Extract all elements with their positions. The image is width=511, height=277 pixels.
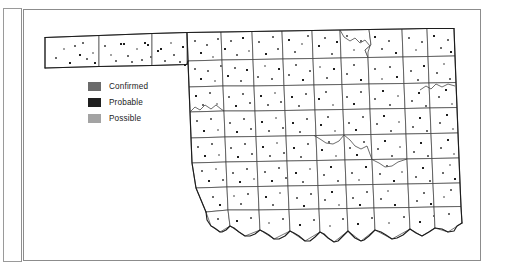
figure-frame: Confirmed Probable Possible <box>23 9 481 261</box>
legend-label-possible: Possible <box>109 114 141 123</box>
oklahoma-county-map <box>24 10 482 262</box>
map-stage: Confirmed Probable Possible <box>24 10 480 260</box>
confirmed-swatch <box>88 82 101 91</box>
possible-swatch <box>88 114 101 123</box>
legend-label-confirmed: Confirmed <box>109 82 148 91</box>
page-edge-strip <box>3 8 22 262</box>
probable-swatch <box>88 98 101 107</box>
legend-label-probable: Probable <box>109 98 143 107</box>
legend-item-confirmed: Confirmed <box>88 80 174 93</box>
map-legend: Confirmed Probable Possible <box>88 80 174 128</box>
legend-item-possible: Possible <box>88 112 174 125</box>
county-boundaries <box>45 29 462 243</box>
legend-item-probable: Probable <box>88 96 174 109</box>
